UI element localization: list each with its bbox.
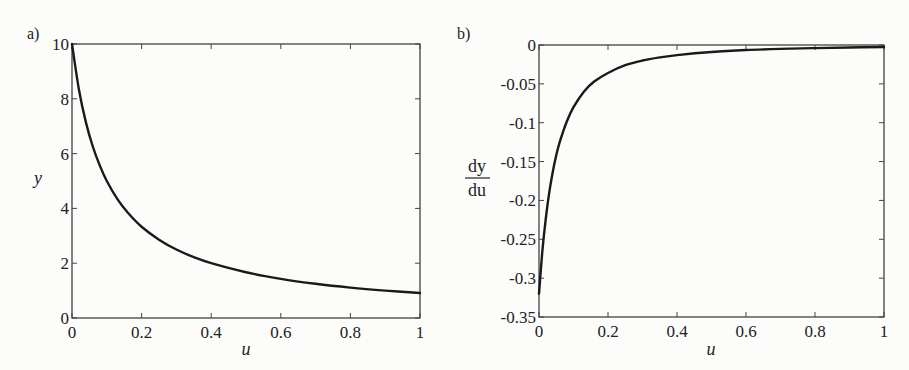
y-tick-label: 2 [61,254,70,273]
x-tick-label: 0.2 [131,323,152,342]
panel-a-chart: a) 00.20.40.60.81 0246810 u y [27,25,424,359]
panel-b-label: b) [457,25,470,43]
panel-b-curve [539,47,884,294]
panel-b-x-axis: 00.20.40.60.81 [535,45,889,341]
panel-b-y-label-numerator: dy [468,156,486,176]
y-tick-label: 10 [52,35,69,54]
y-tick-label: -0.3 [509,269,536,288]
y-tick-label: 0 [528,36,537,55]
y-tick-label: 4 [61,199,70,218]
panel-a-plot-frame [72,44,420,318]
panel-b-y-axis-label: dy du [465,156,490,200]
x-tick-label: 0.8 [340,323,361,342]
panel-a-label: a) [27,25,39,43]
x-tick-label: 0.2 [597,322,618,341]
y-tick-label: 8 [61,90,70,109]
x-tick-label: 0.4 [201,323,223,342]
figure: a) 00.20.40.60.81 0246810 u y b) 00.20.4… [0,0,909,370]
x-tick-label: 0 [535,322,544,341]
y-tick-label: -0.05 [501,75,536,94]
panel-a-curve [72,44,420,293]
x-tick-label: 0.6 [270,323,291,342]
x-tick-label: 0.4 [666,322,688,341]
y-tick-label: -0.35 [501,308,536,327]
y-tick-label: -0.1 [509,114,536,133]
x-tick-label: 0 [68,323,77,342]
panel-b-chart: b) 00.20.40.60.81 0-0.05-0.1-0.15-0.2-0.… [457,25,888,359]
x-tick-label: 0.6 [735,322,756,341]
panel-a-y-axis-label: y [32,168,42,188]
x-tick-label: 0.8 [804,322,825,341]
x-tick-label: 1 [880,322,889,341]
x-tick-label: 1 [416,323,425,342]
panel-b-y-axis: 0-0.05-0.1-0.15-0.2-0.25-0.3-0.35 [501,36,884,327]
y-tick-label: 6 [61,145,70,164]
y-tick-label: -0.15 [501,153,536,172]
panel-b-x-axis-label: u [707,339,716,359]
panel-a-x-axis: 00.20.40.60.81 [68,44,425,342]
y-tick-label: -0.2 [509,191,536,210]
panel-a-x-axis-label: u [242,339,251,359]
y-tick-label: -0.25 [501,230,536,249]
y-tick-label: 0 [61,309,70,328]
panel-b-y-label-denominator: du [468,180,486,200]
